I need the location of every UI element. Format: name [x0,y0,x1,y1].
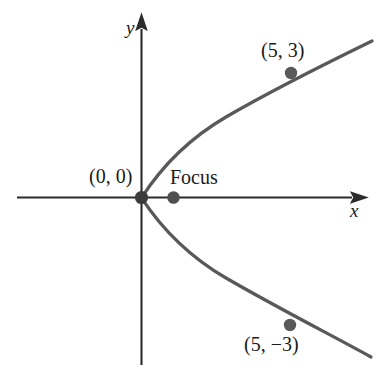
upper-point-marker [285,67,297,79]
plot-canvas [0,0,392,385]
upper-point-label: (5, 3) [261,40,304,60]
origin-point-label: (0, 0) [89,166,132,186]
lower-point-label: (5, −3) [244,334,299,354]
origin-point-marker [135,191,148,204]
x-axis-label: x [350,201,358,220]
lower-point-marker [284,319,296,331]
focus-point-marker [167,191,180,204]
y-axis-label: y [126,18,134,37]
focus-label: Focus [170,167,218,187]
parabola-figure: y x (0, 0) Focus (5, 3) (5, −3) [0,0,392,385]
